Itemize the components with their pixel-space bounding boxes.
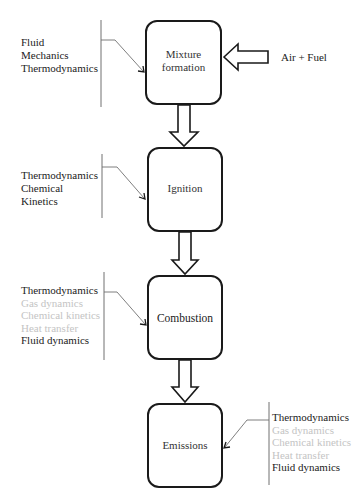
stage-mixture-formation: Mixture formation <box>146 21 221 104</box>
annotation-item: Fluid dynamics <box>21 334 89 346</box>
combustion-process-diagram: Mixture formation Ignition Combustion Em… <box>0 0 363 501</box>
stage-combustion: Combustion <box>148 276 222 359</box>
annotation-item: Fluid <box>21 36 45 48</box>
annotation-item: Heat transfer <box>21 322 78 334</box>
stage-label: Combustion <box>157 312 213 324</box>
annotation-item: Chemical <box>21 182 63 194</box>
input-arrow-air-fuel <box>224 44 268 70</box>
annotation-item: Chemical kinetics <box>21 309 100 321</box>
annotation-connector <box>225 420 269 447</box>
annotation-combustion: Thermodynamics Gas dynamics Chemical kin… <box>21 272 146 360</box>
flow-arrow-ignition-to-combustion <box>172 232 198 274</box>
annotation-item: Gas dynamics <box>21 297 83 309</box>
annotation-emissions: Thermodynamics Gas dynamics Chemical kin… <box>224 402 351 485</box>
stage-label: Emissions <box>162 439 207 451</box>
annotation-item: Kinetics <box>21 195 58 207</box>
annotation-item: Heat transfer <box>272 449 329 461</box>
annotation-item: Mechanics <box>21 49 69 61</box>
annotation-item: Thermodynamics <box>21 62 98 74</box>
stage-label-line: Mixture <box>166 48 202 60</box>
stage-label-line: formation <box>162 61 206 73</box>
annotation-item: Thermodynamics <box>21 284 98 296</box>
annotation-connector <box>104 292 145 324</box>
annotation-item: Thermodynamics <box>272 411 349 423</box>
stage-label: Ignition <box>168 182 203 194</box>
input-label-air-fuel: Air + Fuel <box>281 51 327 63</box>
annotation-mixture-formation: Fluid Mechanics Thermodynamics <box>21 20 144 107</box>
annotation-connector <box>101 40 143 71</box>
annotation-item: Chemical kinetics <box>272 436 351 448</box>
annotation-item: Thermodynamics <box>21 169 98 181</box>
annotation-ignition: Thermodynamics Chemical Kinetics <box>21 154 145 218</box>
annotation-item: Fluid dynamics <box>272 461 340 473</box>
flow-arrow-mixture-to-ignition <box>170 105 198 146</box>
annotation-connector <box>102 167 144 198</box>
flow-arrow-combustion-to-emissions <box>172 360 198 402</box>
stage-emissions: Emissions <box>148 404 222 487</box>
stage-ignition: Ignition <box>148 148 222 231</box>
annotation-item: Gas dynamics <box>272 424 334 436</box>
